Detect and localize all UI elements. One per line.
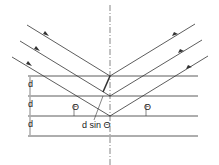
d-label-2: d [28, 100, 33, 109]
d-label-3: d [28, 120, 33, 129]
theta-left-label: Θ [72, 103, 79, 112]
d-label-1: d [28, 80, 33, 89]
theta-right-label: Θ [144, 103, 151, 112]
bragg-diagram: d d d Θ Θ d sin Θ [0, 0, 219, 165]
path-difference-label: d sin Θ [82, 121, 111, 130]
